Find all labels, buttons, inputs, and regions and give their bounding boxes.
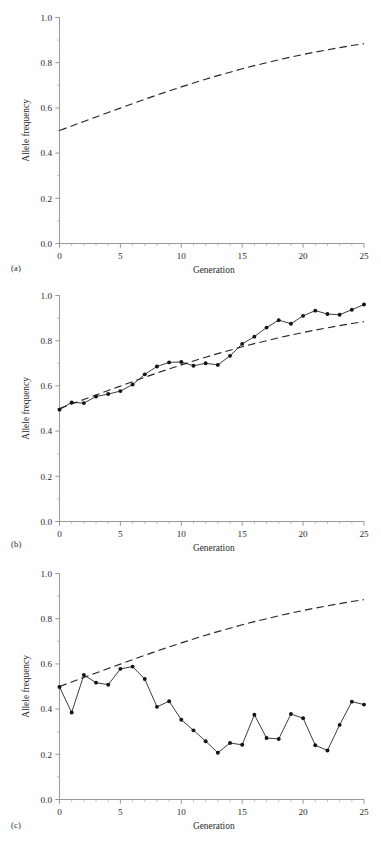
figure-allele-frequency-drift: 0.00.20.40.60.81.00510152025GenerationAl…: [0, 0, 381, 847]
xtick-label: 25: [359, 807, 369, 817]
ytick-label: 0.4: [41, 426, 53, 436]
ytick-label: 0.4: [41, 704, 53, 714]
xtick-label: 0: [57, 807, 62, 817]
xtick-label: 5: [118, 807, 123, 817]
x-axis-title: Generation: [193, 821, 235, 831]
panel-b: 0.00.20.40.60.81.00510152025GenerationAl…: [0, 278, 381, 560]
xtick-label: 5: [118, 529, 123, 539]
ytick-label: 0.8: [41, 614, 53, 624]
xtick-label: 20: [299, 529, 309, 539]
x-axis-title: Generation: [193, 265, 235, 275]
xtick-label: 0: [57, 251, 62, 261]
axes-a: 0.00.20.40.60.81.00510152025: [41, 13, 369, 261]
panel-c: 0.00.20.40.60.81.00510152025GenerationAl…: [0, 556, 381, 838]
xtick-label: 0: [57, 529, 62, 539]
xtick-label: 20: [299, 251, 309, 261]
ytick-label: 0.2: [41, 194, 53, 204]
panel-label-a: (a): [11, 263, 21, 273]
ytick-label: 0.8: [41, 58, 53, 68]
ytick-label: 0.0: [41, 795, 53, 805]
series-a-0: [60, 44, 365, 131]
ytick-label: 0.0: [41, 517, 53, 527]
ytick-label: 0.2: [41, 472, 53, 482]
panel-label-b: (b): [11, 539, 22, 549]
series-c-1: [60, 667, 365, 753]
xtick-label: 10: [177, 807, 187, 817]
y-axis-title: Allele frequency: [21, 655, 31, 718]
axes-b: 0.00.20.40.60.81.00510152025: [41, 291, 369, 539]
axes-c: 0.00.20.40.60.81.00510152025: [41, 569, 369, 817]
ytick-label: 0.4: [41, 148, 53, 158]
ytick-label: 1.0: [41, 569, 53, 579]
xtick-label: 10: [177, 251, 187, 261]
ytick-label: 0.0: [41, 239, 53, 249]
ytick-label: 0.6: [41, 659, 53, 669]
xtick-label: 20: [299, 807, 309, 817]
ytick-label: 0.8: [41, 336, 53, 346]
ytick-label: 0.6: [41, 381, 53, 391]
markers-c-1: [58, 665, 366, 755]
xtick-label: 15: [238, 251, 248, 261]
series-b-0: [60, 322, 365, 409]
y-axis-title: Allele frequency: [21, 99, 31, 162]
panel-a: 0.00.20.40.60.81.00510152025GenerationAl…: [0, 0, 381, 282]
ytick-label: 0.6: [41, 103, 53, 113]
panel-label-c: (c): [11, 820, 21, 830]
xtick-label: 10: [177, 529, 187, 539]
xtick-label: 15: [238, 807, 248, 817]
y-axis-title: Allele frequency: [21, 377, 31, 440]
series-b-1: [60, 305, 365, 410]
ytick-label: 1.0: [41, 13, 53, 23]
xtick-label: 25: [359, 251, 369, 261]
xtick-label: 15: [238, 529, 248, 539]
x-axis-title: Generation: [193, 543, 235, 553]
series-c-0: [60, 600, 365, 687]
ytick-label: 1.0: [41, 291, 53, 301]
xtick-label: 5: [118, 251, 123, 261]
ytick-label: 0.2: [41, 750, 53, 760]
xtick-label: 25: [359, 529, 369, 539]
